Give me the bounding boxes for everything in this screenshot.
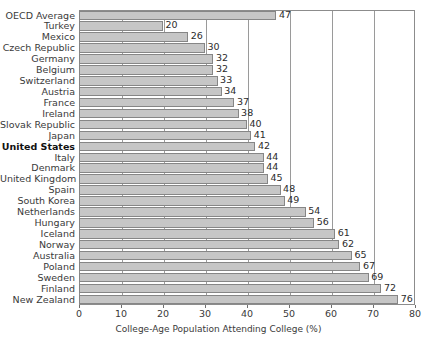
tick-label: 50 <box>283 308 295 320</box>
x-axis-ticks: 01020304050607080 <box>79 305 415 321</box>
bar-value-label: 76 <box>398 293 413 305</box>
bar <box>79 65 213 75</box>
bar <box>79 251 352 261</box>
bar-value-label: 72 <box>381 282 396 294</box>
bar <box>79 295 398 305</box>
bar <box>79 43 205 53</box>
bar <box>79 32 188 42</box>
bar-value-label: 56 <box>314 216 329 228</box>
bar <box>79 174 268 184</box>
tick-label: 0 <box>76 308 82 320</box>
bar <box>79 54 213 64</box>
tick-label: 30 <box>199 308 211 320</box>
bar <box>79 76 218 86</box>
category-label: New Zealand <box>0 294 75 306</box>
bar <box>79 240 339 250</box>
tick-label: 80 <box>409 308 421 320</box>
bar <box>79 120 247 130</box>
bar <box>79 153 264 163</box>
bar-value-label: 47 <box>276 9 291 21</box>
bar <box>79 109 239 119</box>
bar <box>79 185 281 195</box>
bar <box>79 284 381 294</box>
tick-label: 10 <box>115 308 127 320</box>
x-axis-title: College-Age Population Attending College… <box>0 323 437 335</box>
bar <box>79 131 251 141</box>
bar <box>79 196 285 206</box>
tick-label: 60 <box>325 308 337 320</box>
bar <box>79 273 369 283</box>
bar <box>79 163 264 173</box>
bar <box>79 87 222 97</box>
bars-layer: 4720263032323334373840414244444548495456… <box>79 10 415 305</box>
bar <box>79 98 234 108</box>
category-axis-labels: OECD AverageTurkeyMexicoCzech RepublicGe… <box>0 10 75 305</box>
bar <box>79 11 276 21</box>
bar <box>79 21 163 31</box>
bar-value-label: 49 <box>285 194 300 206</box>
bar <box>79 218 314 228</box>
bar-value-label: 26 <box>188 30 203 42</box>
tick-label: 40 <box>241 308 253 320</box>
bar <box>79 262 360 272</box>
bar <box>79 229 335 239</box>
bar-chart: OECD AverageTurkeyMexicoCzech RepublicGe… <box>0 0 437 345</box>
tick-label: 20 <box>157 308 169 320</box>
bar <box>79 207 306 217</box>
bar <box>79 142 255 152</box>
bar-value-label: 20 <box>163 19 178 31</box>
tick-label: 70 <box>367 308 379 320</box>
